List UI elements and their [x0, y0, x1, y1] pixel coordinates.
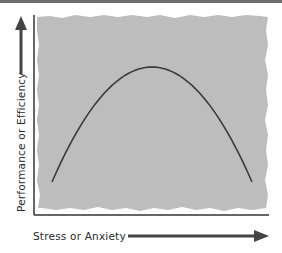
y-arrow-head-icon — [15, 16, 27, 30]
x-arrow-head-icon — [254, 230, 269, 242]
chart: Stress or Anxiety Performance or Efficie… — [0, 0, 282, 253]
x-axis-label: Stress or Anxiety — [33, 230, 126, 242]
plot-background-panel — [37, 15, 268, 211]
y-axis-label: Performance or Efficiency — [15, 72, 27, 212]
